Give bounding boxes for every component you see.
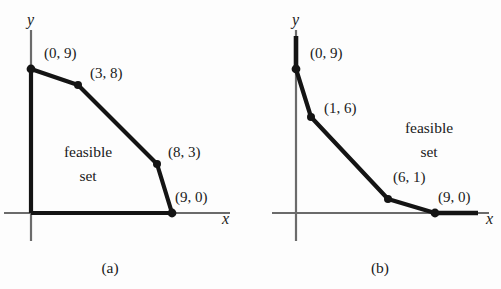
panel-b-label-6-1: (6, 1)	[393, 170, 426, 185]
panel-a-axes	[4, 30, 230, 241]
panel-b-vertex-6-1	[384, 195, 392, 203]
panel-b-region-label-line2: set	[420, 144, 437, 160]
panel-a-vertex-8-3	[153, 160, 161, 168]
panel-b-axes	[272, 30, 489, 241]
panel-a-region-label-line2: set	[79, 168, 96, 184]
panel-b-caption: (b)	[371, 260, 389, 276]
panel-b-label-0-9: (0, 9)	[310, 46, 343, 61]
panel-a-label-8-3: (8, 3)	[168, 145, 201, 160]
panel-a-vertex-3-8	[74, 81, 82, 89]
panel-b-x-axis-label: x	[486, 211, 493, 227]
panel-b-label-1-6: (1, 6)	[324, 101, 357, 116]
panel-b-y-axis-label: y	[292, 12, 299, 28]
panel-a-region-label-line1: feasible	[64, 144, 112, 160]
panel-a-vertex-0-9	[27, 65, 36, 74]
panel-b-boundary-path	[296, 69, 435, 213]
panel-b-vertex-9-0	[431, 209, 440, 218]
panel-a-label-0-9: (0, 9)	[44, 46, 77, 61]
panel-a-upper-boundary	[31, 69, 172, 213]
panel-b-vertex-1-6	[307, 113, 315, 121]
panel-a-caption: (a)	[101, 260, 118, 276]
panel-a-x-axis-label: x	[222, 211, 229, 227]
panel-a-label-3-8: (3, 8)	[90, 66, 123, 81]
panel-a-vertex-9-0	[168, 209, 177, 218]
panel-a-boundary	[27, 65, 177, 218]
panel-a-label-9-0: (9, 0)	[175, 190, 208, 205]
panel-b-label-9-0: (9, 0)	[438, 190, 471, 205]
panel-a-y-axis-label: y	[27, 12, 34, 28]
panel-b-region-label-line1: feasible	[405, 120, 453, 136]
figure-container: y x (0, 9) (3, 8) (8, 3) (9, 0) feasible…	[0, 0, 501, 289]
panel-b-vertex-0-9	[292, 65, 301, 74]
